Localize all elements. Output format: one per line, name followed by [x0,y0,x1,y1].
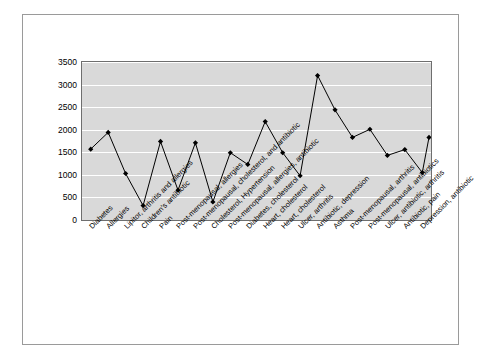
y-axis-tick-label: 0 [72,216,77,225]
chart-page: 0500100015002000250030003500 DiabetesAll… [0,0,481,359]
data-point-marker [332,107,337,112]
x-axis-labels: DiabetesAllergiesLipitor, arthritis and … [81,223,441,353]
data-point-marker [385,153,390,158]
data-point-marker [228,150,233,155]
y-axis-tick-label: 3000 [58,81,77,90]
data-point-marker [426,135,431,140]
y-axis-tick-label: 1500 [58,148,77,157]
y-axis-tick-label: 500 [63,193,77,202]
y-axis-labels: 0500100015002000250030003500 [41,55,77,235]
data-point-marker [367,127,372,132]
chart-frame: 0500100015002000250030003500 DiabetesAll… [22,14,459,345]
y-axis-tick-label: 2000 [58,126,77,135]
data-point-marker [350,135,355,140]
data-point-marker [158,139,163,144]
y-axis-tick-label: 1000 [58,171,77,180]
y-axis-tick-label: 3500 [58,58,77,67]
data-point-marker [315,73,320,78]
data-point-marker [123,171,128,176]
data-point-marker [193,140,198,145]
data-point-marker [263,119,268,124]
y-axis-tick-label: 2500 [58,103,77,112]
